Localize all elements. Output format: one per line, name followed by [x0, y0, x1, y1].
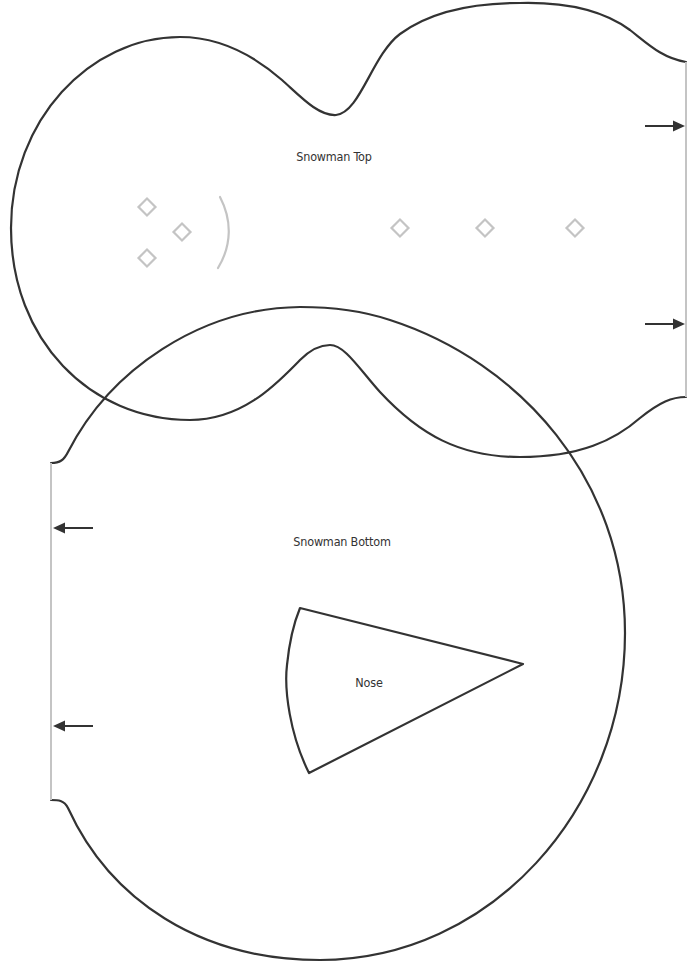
- fold-arrow-icon: [645, 319, 685, 330]
- mouth-guide-arc-icon: [218, 197, 229, 268]
- button-guide-diamond-icon: [392, 220, 409, 237]
- fold-arrow-icon: [53, 721, 93, 732]
- fold-arrow-icon: [645, 121, 685, 132]
- eye-guide-diamond-icon: [174, 224, 191, 241]
- nose-label: Nose: [355, 675, 382, 690]
- eye-guide-diamond-icon: [139, 250, 156, 267]
- snowman-top-label: Snowman Top: [296, 149, 371, 164]
- pattern-canvas: [0, 0, 695, 966]
- fold-arrow-icon: [53, 523, 93, 534]
- button-guide-diamond-icon: [567, 220, 584, 237]
- button-guide-diamond-icon: [477, 220, 494, 237]
- snowman-bottom-outline: [51, 307, 625, 960]
- snowman-bottom-piece: [51, 307, 625, 960]
- nose-outline: [286, 608, 523, 773]
- nose-piece: [286, 608, 523, 773]
- eye-guide-diamond-icon: [139, 199, 156, 216]
- snowman-bottom-label: Snowman Bottom: [293, 534, 390, 549]
